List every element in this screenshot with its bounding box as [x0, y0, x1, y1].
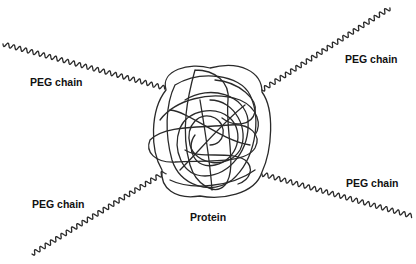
label-protein: Protein	[190, 211, 226, 223]
peg-chain-bottom-left	[32, 172, 166, 256]
peg-chain-top-left	[3, 43, 165, 89]
label-peg-chain-top-left: PEG chain	[30, 76, 83, 88]
label-peg-chain-bottom-left: PEG chain	[32, 198, 85, 210]
label-peg-chain-bottom-right: PEG chain	[346, 177, 399, 189]
pegylated-protein-diagram	[0, 0, 416, 264]
label-peg-chain-top-right: PEG chain	[345, 53, 398, 65]
protein-coil	[149, 65, 271, 197]
peg-chain-top-right	[262, 8, 390, 91]
